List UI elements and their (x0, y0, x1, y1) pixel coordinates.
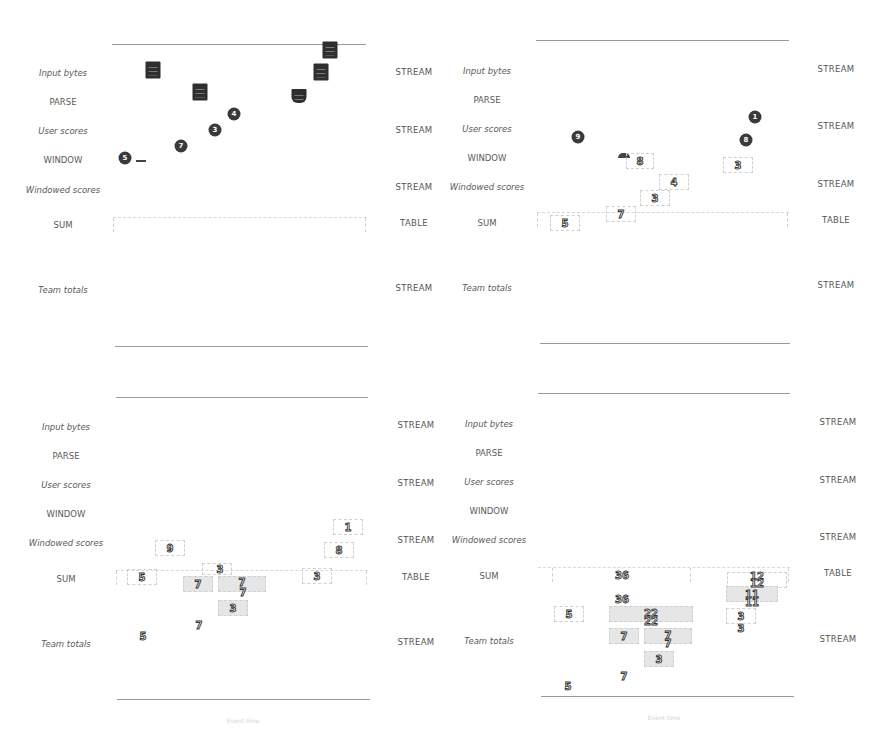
user-score-dot: 8 (740, 134, 753, 147)
row-label-sum: SUM (11, 574, 121, 584)
row-kind-table: TABLE (808, 568, 868, 578)
row-kind-stream: STREAM (808, 417, 868, 427)
row-label-user-scores: User scores (432, 124, 542, 134)
team-total-value: 5 (565, 681, 572, 692)
row-label-team-totals: Team totals (11, 639, 121, 649)
row-label-windowed-scores: Windowed scores (8, 185, 118, 195)
bottom-axis-title: Event time (203, 717, 283, 724)
row-label-input-bytes: Input bytes (432, 66, 542, 76)
row-kind-table: TABLE (806, 215, 866, 225)
row-label-windowed-scores: Windowed scores (434, 535, 544, 545)
sum-value: 36 (615, 570, 629, 581)
sum-value: 5 (566, 609, 573, 620)
sum-value: 3 (656, 654, 663, 665)
user-score-dot: 7 (175, 140, 188, 153)
row-label-team-totals: Team totals (432, 283, 542, 293)
window-value: 1 (345, 522, 352, 533)
sum-value: 7 (621, 631, 628, 642)
row-label-window: WINDOW (11, 509, 121, 519)
window-value: 5 (562, 218, 569, 229)
bottom-axis-ticks (110, 703, 380, 711)
row-label-sum: SUM (432, 218, 542, 228)
sum-value: 7 (195, 579, 202, 590)
input-bytes-chip-icon (146, 62, 161, 79)
window-value: 3 (735, 160, 742, 171)
sum-table-band (537, 212, 789, 213)
bottom-axis-line (541, 696, 794, 697)
row-kind-stream: STREAM (808, 475, 868, 485)
sum-value: 3 (230, 603, 237, 614)
team-total-value: 5 (140, 631, 147, 642)
bottom-axis-line (540, 343, 790, 344)
sum-value: 3 (314, 571, 321, 582)
input-bytes-chip-icon (193, 84, 208, 101)
row-label-windowed-scores: Windowed scores (432, 182, 542, 192)
row-kind-stream: STREAM (806, 64, 866, 74)
sum-value: 3 (738, 623, 745, 634)
diagram-panel-4: Input bytes PARSE User scores WINDOW Win… (444, 375, 887, 750)
window-value: 8 (336, 545, 343, 556)
row-label-parse: PARSE (8, 97, 118, 107)
user-score-dot: 5 (119, 152, 132, 165)
row-label-user-scores: User scores (434, 477, 544, 487)
user-score-dot: 3 (209, 124, 222, 137)
top-axis-line (116, 397, 368, 398)
row-label-input-bytes: Input bytes (8, 68, 118, 78)
diagram-panel-3: Input bytes PARSE User scores WINDOW Win… (0, 375, 443, 750)
window-value: 7 (618, 209, 625, 220)
user-score-dot: 4 (228, 108, 241, 121)
bottom-axis-ticks (104, 350, 374, 358)
diagram-panel-1: Input bytes PARSE User scores WINDOW Win… (0, 0, 443, 375)
row-label-parse: PARSE (11, 451, 121, 461)
window-value: 8 (637, 156, 644, 167)
row-kind-stream: STREAM (806, 121, 866, 131)
diagram-panel-2: Input bytes PARSE User scores WINDOW Win… (444, 0, 887, 375)
dash-marker (136, 160, 146, 162)
sum-value: 11 (745, 597, 759, 608)
sum-value: 7 (665, 638, 672, 649)
row-kind-stream: STREAM (808, 532, 868, 542)
row-label-sum: SUM (8, 220, 118, 230)
row-label-user-scores: User scores (11, 480, 121, 490)
row-label-input-bytes: Input bytes (434, 419, 544, 429)
row-kind-stream: STREAM (808, 634, 868, 644)
sum-value: 3 (738, 611, 745, 622)
bottom-axis-ticks (530, 347, 800, 355)
row-kind-stream: STREAM (806, 280, 866, 290)
top-axis-line (536, 40, 789, 41)
top-axis-line (538, 393, 790, 394)
row-label-input-bytes: Input bytes (11, 422, 121, 432)
sum-value: 12 (750, 578, 764, 589)
sum-table-band (538, 567, 790, 568)
sum-value: 7 (240, 587, 247, 598)
row-label-team-totals: Team totals (434, 636, 544, 646)
row-kind-stream: STREAM (806, 179, 866, 189)
bottom-axis-title: Event time (624, 714, 704, 721)
row-label-parse: PARSE (434, 448, 544, 458)
window-value: 3 (652, 193, 659, 204)
window-value: 9 (167, 543, 174, 554)
row-label-window: WINDOW (8, 155, 118, 165)
input-bytes-chip-icon (323, 42, 338, 59)
bottom-axis-ticks (532, 700, 802, 708)
row-label-window: WINDOW (434, 506, 544, 516)
row-label-windowed-scores: Windowed scores (11, 538, 121, 548)
user-score-dot: 9 (572, 131, 585, 144)
sum-value: 22 (644, 616, 658, 627)
user-score-dot: 1 (749, 111, 762, 124)
input-bytes-chip-icon (314, 64, 329, 81)
row-label-parse: PARSE (432, 95, 542, 105)
bottom-axis-line (115, 346, 368, 347)
bottom-axis-line (117, 699, 370, 700)
window-value: 4 (671, 177, 678, 188)
team-total-value: 7 (196, 620, 203, 631)
row-label-user-scores: User scores (8, 126, 118, 136)
row-label-window: WINDOW (432, 153, 542, 163)
sum-table-band (113, 217, 367, 218)
input-bytes-chip-icon (292, 89, 307, 103)
window-value: 3 (217, 564, 224, 575)
sum-value: 5 (139, 572, 146, 583)
sum-value: 36 (615, 594, 629, 605)
row-label-team-totals: Team totals (8, 285, 118, 295)
row-label-sum: SUM (434, 571, 544, 581)
